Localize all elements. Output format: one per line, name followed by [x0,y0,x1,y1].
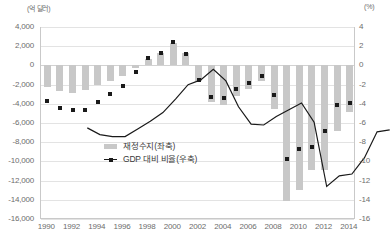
legend-label-gdp-ratio: GDP 대비 비율(우축) [123,153,197,166]
line-marker-swatch-icon [104,157,117,162]
line-marker [297,147,301,151]
line-marker [272,93,276,97]
line-marker [323,129,327,133]
line-marker [45,99,49,103]
line-marker [71,108,75,112]
plot-area [40,27,355,219]
left-axis-tick-label: -4,000 [13,99,34,108]
right-axis-tick-label: -4 [359,99,366,108]
left-axis-tick-label: 2,000 [15,41,34,50]
line-marker [121,84,125,88]
legend-label-fiscal-balance: 재정수지(좌축) [123,140,175,153]
right-axis-tick-label: 2 [359,41,363,50]
x-axis-tick-label: 1992 [63,222,80,231]
left-axis-tick-label: -6,000 [13,118,34,127]
right-axis-tick-label: -8 [359,137,366,146]
line-marker [234,87,238,91]
line-marker [285,157,289,161]
line-marker [96,100,100,104]
bar-swatch-icon [104,144,117,149]
x-axis-tick-label: 2014 [340,222,357,231]
line-marker [197,78,201,82]
gridline [41,46,354,47]
fiscal-balance-chart: (억 달러) (%) 4,0002,0000-2,000-4,000-6,000… [0,0,391,250]
left-axis-tick-label: 4,000 [15,22,34,31]
x-axis-tick-label: 2004 [214,222,231,231]
line-marker [159,51,163,55]
left-axis-unit-label: (억 달러) [27,3,50,13]
legend-item-fiscal-balance: 재정수지(좌축) [104,140,197,153]
left-axis-tick-label: -12,000 [8,176,34,185]
line-path [87,69,389,186]
right-axis-tick-label: -6 [359,118,366,127]
line-marker [247,81,251,85]
bar [56,65,63,91]
line-marker [335,103,339,107]
line-marker [222,96,226,100]
x-axis-tick-label: 1994 [88,222,105,231]
right-axis-tick-label: -14 [359,195,370,204]
chart-legend: 재정수지(좌축) GDP 대비 비율(우축) [104,140,197,166]
line-marker [171,40,175,44]
x-axis-tick-label: 2006 [239,222,256,231]
left-axis-tick-label: -2,000 [13,80,34,89]
line-marker [134,70,138,74]
bar [69,65,76,93]
line-marker [209,95,213,99]
line-marker [260,74,264,78]
right-axis-tick-label: -12 [359,176,370,185]
x-axis-tick-label: 1990 [38,222,55,231]
x-axis-tick-label: 2000 [164,222,181,231]
right-axis-tick-label: -16 [359,214,370,223]
line-marker [108,92,112,96]
right-axis-unit-label: (%) [364,3,374,10]
right-axis-tick-label: -10 [359,156,370,165]
gridline [41,27,354,28]
right-axis-tick-label: -2 [359,80,366,89]
right-axis-tick-label: 4 [359,22,363,31]
bar [44,65,51,86]
line-marker [348,101,352,105]
x-axis-tick-label: 1996 [113,222,130,231]
x-axis-tick-label: 1998 [139,222,156,231]
right-axis-tick-label: 0 [359,60,363,69]
x-axis-tick-label: 2008 [265,222,282,231]
left-axis-tick-label: -10,000 [8,156,34,165]
left-axis-tick-label: 0 [30,60,34,69]
line-marker [83,108,87,112]
x-axis-tick-label: 2002 [189,222,206,231]
left-axis-tick-label: -14,000 [8,195,34,204]
left-axis-tick-label: -8,000 [13,137,34,146]
left-axis-tick-label: -16,000 [8,214,34,223]
x-axis-tick-label: 2012 [315,222,332,231]
legend-item-gdp-ratio: GDP 대비 비율(우축) [104,153,197,166]
line-marker [184,52,188,56]
x-axis-tick-label: 2010 [290,222,307,231]
line-marker [146,56,150,60]
line-marker [310,145,314,149]
line-marker [58,106,62,110]
